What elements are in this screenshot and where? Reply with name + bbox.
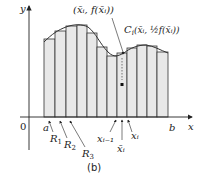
centroid-marker xyxy=(121,83,124,86)
centroid-label: Ci(x̄ᵢ, ½f(x̄ᵢ)) xyxy=(124,24,180,37)
r2-label: R2 xyxy=(63,139,76,152)
figure-caption: (b) xyxy=(87,162,101,173)
r1-label: R1 xyxy=(49,133,62,146)
strip-labels: R1 R2 R3 xyxy=(49,121,94,161)
figure-canvas: y x 0 a b R1 R2 R3 xᵢ₋₁ x̄ᵢ xᵢ (x̄ᵢ, f(x… xyxy=(0,0,198,174)
approximating-rectangles xyxy=(44,25,168,117)
x-i-label: xᵢ xyxy=(131,130,139,141)
x-i-minus-1-label: xᵢ₋₁ xyxy=(97,133,114,144)
r3-label: R3 xyxy=(81,148,94,161)
x-axis-label: x xyxy=(188,121,194,132)
top-point-leader xyxy=(112,18,123,52)
top-point-marker xyxy=(122,52,125,55)
x-bar-i-label: x̄ᵢ xyxy=(117,143,125,154)
a-label: a xyxy=(43,122,49,133)
b-label: b xyxy=(169,122,175,133)
y-axis-label: y xyxy=(19,3,26,14)
riemann-centroid-figure: y x 0 a b R1 R2 R3 xᵢ₋₁ x̄ᵢ xᵢ (x̄ᵢ, f(x… xyxy=(0,0,198,174)
origin-label: 0 xyxy=(20,121,26,132)
top-point-label: (x̄ᵢ, f(x̄ᵢ)) xyxy=(73,4,114,15)
